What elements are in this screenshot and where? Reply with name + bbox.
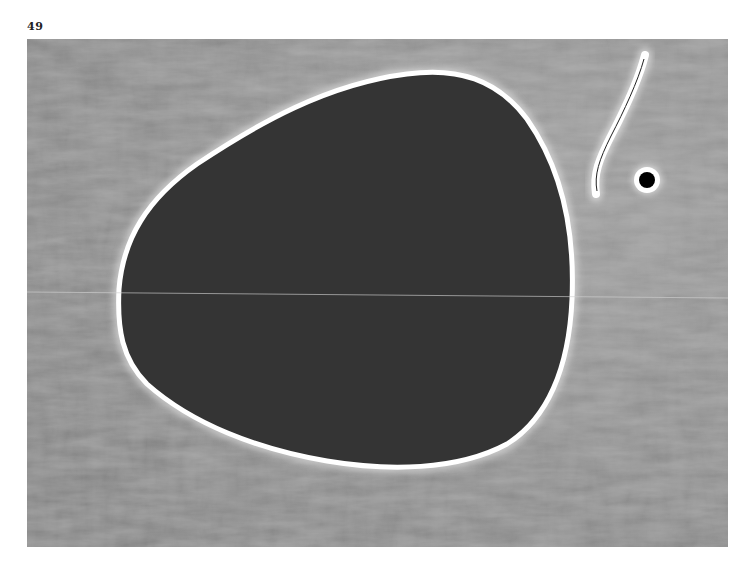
black-dot [639,172,655,188]
painting-reproduction [27,39,728,547]
page-number: 49 [27,20,43,33]
